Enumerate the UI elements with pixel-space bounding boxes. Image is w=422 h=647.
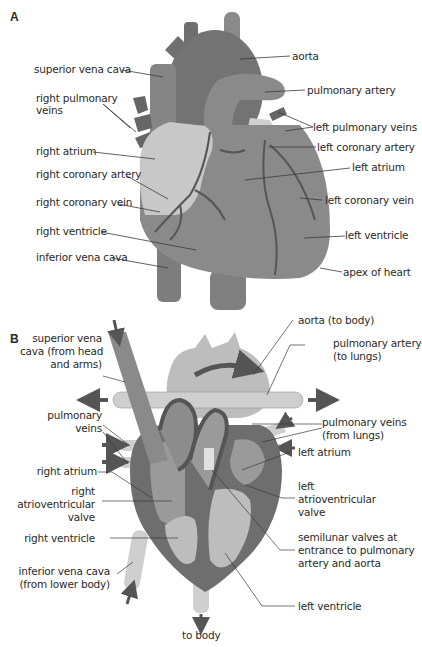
label-left-atrium-a: left atrium: [352, 161, 405, 174]
label-pv-line2: (from lungs): [322, 429, 384, 442]
label-rav-line1: right: [10, 485, 95, 498]
label-svc-line3: and arms): [20, 358, 102, 371]
label-right-atrium-b: right atrium: [10, 465, 97, 478]
label-pulmonary-veins-left-line2: veins: [20, 422, 102, 435]
label-lav-line3: valve: [298, 506, 325, 519]
panel-b-heart-cross-section: B: [0, 320, 419, 647]
label-pa-line2: (to lungs): [333, 350, 381, 363]
label-left-atrium-b: left atrium: [298, 446, 351, 459]
label-ivc-line1: inferior vena cava: [10, 565, 110, 578]
label-right-atrium-a: right atrium: [36, 145, 96, 158]
label-svc-line2: cava (from head: [20, 345, 102, 358]
label-pa-line1: pulmonary artery: [333, 337, 422, 350]
label-right-ventricle-b: right ventricle: [10, 532, 95, 545]
label-left-coronary-artery: left coronary artery: [317, 141, 415, 154]
label-lav-line2: atrioventricular: [298, 493, 376, 506]
label-superior-vena-cava: superior vena cava: [34, 63, 122, 76]
label-sv-line3: artery and aorta: [298, 557, 381, 570]
label-lav-line1: left: [298, 480, 314, 493]
label-pulmonary-veins-left-line1: pulmonary: [20, 409, 102, 422]
label-rav-line2: atrioventricular: [10, 498, 95, 511]
label-ivc-line2: (from lower body): [10, 578, 110, 591]
panel-a-external-heart: A: [0, 0, 419, 320]
label-left-ventricle-a: left ventricle: [345, 229, 408, 242]
semilunar-valves-shape: [204, 448, 214, 470]
label-left-ventricle-b: left ventricle: [298, 600, 361, 613]
label-right-pulmonary-veins-line2: veins: [36, 104, 63, 117]
label-right-coronary-artery: right coronary artery: [36, 168, 141, 181]
label-left-pulmonary-veins: left pulmonary veins: [313, 121, 417, 134]
label-left-coronary-vein: left coronary vein: [325, 194, 414, 207]
label-sv-line1: semilunar valves at: [298, 531, 397, 544]
label-right-coronary-vein: right coronary vein: [36, 196, 132, 209]
label-aorta-to-body: aorta (to body): [298, 314, 374, 327]
label-sv-line2: entrance to pulmonary: [298, 544, 414, 557]
label-right-ventricle-a: right ventricle: [36, 225, 107, 238]
label-pv-line1: pulmonary veins: [322, 416, 407, 429]
label-rav-line3: valve: [10, 511, 95, 524]
label-aorta-a: aorta: [292, 50, 319, 63]
label-inferior-vena-cava-a: inferior vena cava: [36, 251, 127, 264]
label-svc-line1: superior vena: [20, 332, 102, 345]
label-pulmonary-artery-a: pulmonary artery: [307, 84, 396, 97]
label-apex-of-heart: apex of heart: [343, 266, 411, 279]
label-to-body: to body: [182, 629, 220, 642]
